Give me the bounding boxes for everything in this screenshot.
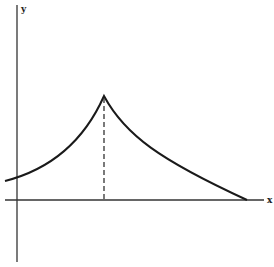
cusp-curve — [5, 96, 247, 200]
diagram-canvas — [0, 0, 274, 267]
x-axis-label: x — [267, 196, 272, 205]
y-axis-label: y — [21, 5, 26, 14]
